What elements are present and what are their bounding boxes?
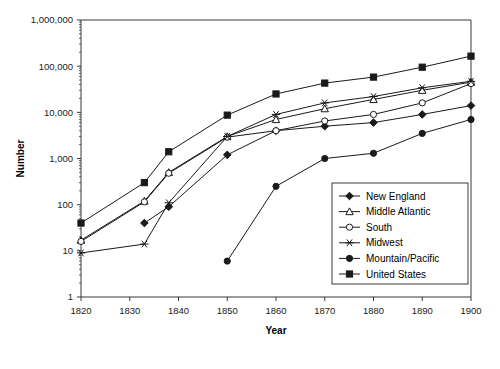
legend-label: Midwest: [366, 237, 403, 248]
y-tick-label: 1,000,000: [31, 14, 73, 25]
marker-square-filled: [346, 271, 352, 277]
marker-square-filled: [224, 112, 230, 118]
marker-circle-filled: [322, 155, 328, 161]
marker-square-filled: [322, 80, 328, 86]
marker-diamond-filled: [418, 111, 426, 119]
x-tick-label: 1900: [460, 305, 481, 316]
marker-square-filled: [141, 180, 147, 186]
marker-square-filled: [78, 220, 84, 226]
x-axis-title: Year: [265, 325, 286, 336]
marker-circle-filled: [419, 130, 425, 136]
x-tick-label: 1840: [168, 305, 189, 316]
marker-circle-filled: [273, 183, 279, 189]
marker-circle-filled: [468, 116, 474, 122]
y-tick-label: 100,000: [39, 61, 73, 72]
marker-circle-filled: [224, 258, 230, 264]
marker-circle-open: [141, 199, 147, 205]
marker-circle-open: [370, 111, 376, 117]
y-tick-label: 1,000: [49, 153, 73, 164]
x-tick-label: 1820: [70, 305, 91, 316]
marker-circle-filled: [346, 255, 352, 261]
x-tick-label: 1860: [265, 305, 286, 316]
y-axis-title: Number: [15, 140, 26, 178]
legend-label: Mountain/Pacific: [366, 253, 439, 264]
marker-circle-open: [346, 224, 352, 230]
marker-circle-open: [273, 128, 279, 134]
x-tick-label: 1830: [119, 305, 140, 316]
line-chart: 1101001,00010,000100,0001,000,0001820183…: [0, 0, 500, 369]
x-tick-label: 1850: [217, 305, 238, 316]
y-tick-label: 100: [57, 199, 73, 210]
marker-square-filled: [468, 53, 474, 59]
marker-square-filled: [419, 64, 425, 70]
x-tick-label: 1870: [314, 305, 335, 316]
legend-label: South: [366, 222, 392, 233]
marker-circle-open: [419, 100, 425, 106]
marker-circle-open: [322, 118, 328, 124]
marker-circle-open: [78, 238, 84, 244]
marker-diamond-filled: [141, 219, 149, 227]
y-tick-label: 10,000: [44, 107, 73, 118]
marker-square-filled: [370, 74, 376, 80]
y-tick-label: 10: [62, 245, 73, 256]
legend-label: Middle Atlantic: [366, 206, 430, 217]
legend-label: United States: [366, 269, 426, 280]
marker-square-filled: [166, 149, 172, 155]
x-tick-label: 1880: [363, 305, 384, 316]
legend-label: New England: [366, 191, 425, 202]
marker-circle-open: [166, 170, 172, 176]
marker-asterisk: [140, 241, 148, 248]
marker-circle-filled: [370, 150, 376, 156]
chart-container: 1101001,00010,000100,0001,000,0001820183…: [0, 0, 500, 369]
y-tick-label: 1: [68, 291, 73, 302]
marker-diamond-filled: [370, 119, 378, 127]
marker-diamond-filled: [467, 102, 475, 110]
x-tick-label: 1890: [412, 305, 433, 316]
marker-square-filled: [273, 91, 279, 97]
